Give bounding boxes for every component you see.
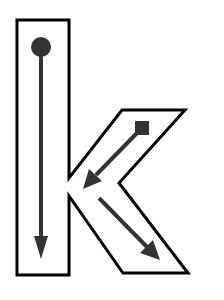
start-square-icon [135, 121, 149, 135]
letter-k-stroke-diagram [0, 0, 224, 300]
